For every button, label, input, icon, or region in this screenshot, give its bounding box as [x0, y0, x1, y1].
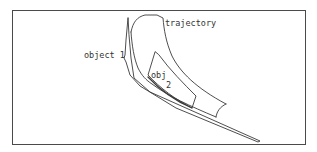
object-2-label-line2: 2 — [166, 80, 171, 90]
object-1-shape — [124, 18, 260, 142]
object-2-shape — [148, 52, 196, 108]
object-1-label: object 1 — [84, 50, 125, 60]
object-2-label-line1: obj — [151, 70, 166, 80]
trajectory-label: trajectory — [165, 18, 216, 28]
trajectory-diagram: trajectory object 1 obj 2 — [0, 0, 317, 152]
